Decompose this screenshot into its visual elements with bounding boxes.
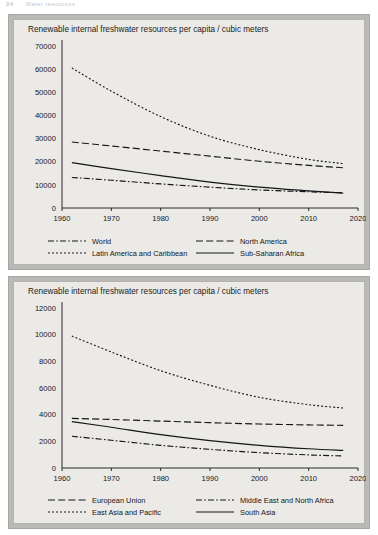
y-tick-label: 12000 (35, 304, 56, 313)
y-tick-label: 60000 (35, 65, 56, 74)
legend-label: World (92, 237, 111, 246)
legend-label: Latin America and Caribbean (92, 249, 187, 258)
y-tick-label: 30000 (35, 134, 56, 143)
y-tick-label: 10000 (35, 330, 56, 339)
series-line (72, 336, 343, 408)
chart-panel-bottom: Renewable internal freshwater resources … (13, 281, 365, 524)
y-tick-label: 0 (52, 204, 56, 213)
x-tick-label: 1990 (202, 214, 219, 223)
y-tick-label: 70000 (35, 42, 56, 51)
chart-legend-top: WorldNorth AmericaLatin America and Cari… (14, 230, 366, 262)
legend-label: East Asia and Pacific (92, 508, 161, 517)
y-tick-label: 0 (52, 464, 56, 473)
figure-top: Renewable internal freshwater resources … (8, 14, 370, 270)
series-line (72, 142, 343, 168)
page-header-text: Water resources (26, 1, 76, 7)
x-tick-label: 2020 (350, 214, 366, 223)
x-tick-label: 1980 (152, 214, 169, 223)
chart-plot-bottom: 0200040006000800010000120001960197019801… (14, 282, 366, 492)
chart-legend-bottom: European UnionMiddle East and North Afri… (14, 489, 366, 521)
chart-plot-top: 0100002000030000400005000060000700001960… (14, 20, 366, 232)
y-tick-label: 40000 (35, 111, 56, 120)
y-tick-label: 50000 (35, 88, 56, 97)
y-tick-label: 4000 (39, 410, 56, 419)
legend-label: Sub-Saharan Africa (240, 249, 305, 258)
series-line (72, 163, 343, 194)
y-tick-label: 10000 (35, 181, 56, 190)
y-tick-label: 2000 (39, 437, 56, 446)
x-tick-label: 1960 (54, 474, 71, 483)
x-tick-label: 1980 (152, 474, 169, 483)
page-header: 24 Water resources (6, 1, 75, 7)
x-tick-label: 1970 (103, 214, 120, 223)
chart-panel-top: Renewable internal freshwater resources … (13, 19, 365, 265)
series-line (72, 68, 343, 164)
series-line (72, 422, 343, 451)
x-tick-label: 1970 (103, 474, 120, 483)
x-tick-label: 2000 (251, 214, 268, 223)
page-number: 24 (6, 1, 13, 7)
series-line (72, 436, 343, 456)
y-tick-label: 20000 (35, 157, 56, 166)
legend-label: European Union (92, 496, 145, 505)
y-tick-label: 8000 (39, 357, 56, 366)
legend-label: South Asia (240, 508, 276, 517)
x-tick-label: 2010 (300, 474, 317, 483)
x-tick-label: 2010 (300, 214, 317, 223)
figure-bottom: Renewable internal freshwater resources … (8, 276, 370, 529)
x-tick-label: 1960 (54, 214, 71, 223)
x-tick-label: 2020 (350, 474, 366, 483)
x-tick-label: 2000 (251, 474, 268, 483)
series-line (72, 418, 343, 425)
y-tick-label: 6000 (39, 384, 56, 393)
legend-label: North America (240, 237, 288, 246)
x-tick-label: 1990 (202, 474, 219, 483)
legend-label: Middle East and North Africa (240, 496, 335, 505)
